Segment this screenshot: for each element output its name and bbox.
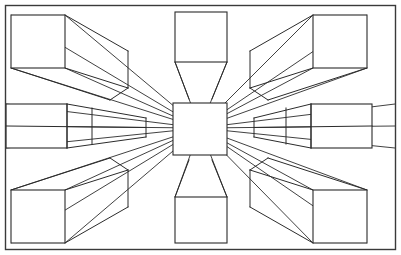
bottom-right-box-front-face bbox=[313, 190, 367, 243]
top-right-box-top-recede bbox=[250, 15, 313, 51]
middle-left-box bbox=[6, 104, 146, 148]
bottom-left-box-front-face bbox=[11, 190, 65, 243]
top-right-box-front-face bbox=[313, 15, 367, 68]
bottom-left-box bbox=[11, 158, 128, 243]
bottom-center-box-front-face bbox=[175, 197, 227, 243]
center-picture-plane-square bbox=[173, 103, 227, 155]
middle-left-box-top-recede bbox=[67, 104, 146, 118]
top-right-box-back-bottom bbox=[250, 88, 268, 100]
middle-right-box bbox=[254, 104, 372, 148]
perspective-figure bbox=[0, 0, 401, 255]
bottom-right-box-bottom-recede bbox=[250, 207, 313, 243]
top-left-box-bottom-recede-right bbox=[65, 68, 128, 88]
bottom-center-box-recede-right bbox=[212, 160, 227, 197]
bottom-left-box-top-recede-right bbox=[65, 170, 128, 190]
bottom-left-box-bottom-recede bbox=[65, 207, 128, 243]
top-left-box bbox=[11, 15, 128, 100]
top-left-box-front-face bbox=[11, 15, 65, 68]
middle-left-box-bottom-recede bbox=[67, 137, 146, 148]
bottom-left-box-top-recede-left bbox=[11, 158, 110, 190]
top-left-box-bottom-recede-left bbox=[11, 68, 110, 100]
perspective-drawing-canvas bbox=[0, 0, 401, 255]
top-center-box-recede-right bbox=[212, 62, 227, 99]
middle-right-box-top-recede bbox=[254, 104, 311, 118]
top-right-box bbox=[250, 15, 367, 100]
top-center-box-recede-left bbox=[175, 62, 189, 99]
bottom-right-box bbox=[250, 158, 367, 243]
bottom-center-box bbox=[175, 160, 227, 243]
top-center-box-front-face bbox=[175, 12, 227, 62]
top-left-box-back-bottom bbox=[110, 88, 128, 100]
bottom-center-box-recede-left bbox=[175, 160, 189, 197]
top-left-box-top-recede bbox=[65, 15, 128, 51]
top-center-box bbox=[175, 12, 227, 99]
